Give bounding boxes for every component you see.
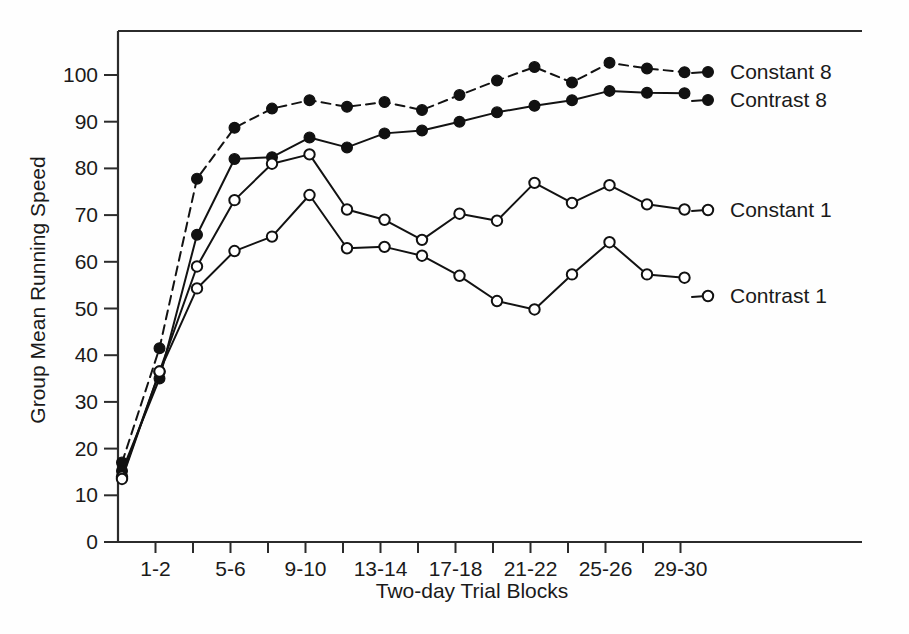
data-point: [304, 149, 314, 159]
data-point: [417, 251, 427, 261]
y-tick-label-90: 90: [75, 110, 98, 133]
series-path-0: [122, 63, 685, 463]
data-point: [192, 261, 202, 271]
data-point: [567, 95, 578, 106]
data-point: [492, 296, 502, 306]
data-point: [154, 366, 164, 376]
line-chart: 0102030405060708090100 1-25-69-1013-1417…: [0, 0, 909, 634]
y-tick-label-20: 20: [75, 437, 98, 460]
y-tick-label-30: 30: [75, 390, 98, 413]
legend-marker-3: [703, 291, 713, 301]
legend-label-1: Contrast 8: [730, 88, 827, 111]
y-axis-title: Group Mean Running Speed: [26, 156, 49, 423]
data-point: [529, 100, 540, 111]
data-point: [304, 190, 314, 200]
data-point: [117, 474, 127, 484]
x-tick-label-17-18: 17-18: [429, 557, 483, 580]
data-point: [379, 97, 390, 108]
y-axis-tick-labels: 0102030405060708090100: [63, 63, 98, 553]
data-point: [342, 101, 353, 112]
data-point: [267, 103, 278, 114]
data-point: [679, 88, 690, 99]
data-point: [229, 246, 239, 256]
data-point: [417, 105, 428, 116]
data-point: [342, 142, 353, 153]
x-tick-label-5-6: 5-6: [215, 557, 245, 580]
data-point: [192, 173, 203, 184]
data-point: [492, 216, 502, 226]
data-point: [642, 269, 652, 279]
data-point: [229, 195, 239, 205]
series-layer: [117, 57, 690, 484]
data-point: [229, 122, 240, 133]
x-axis-tick-labels: 1-25-69-1013-1417-1821-2225-2629-30: [140, 557, 707, 580]
data-point: [192, 283, 202, 293]
data-point: [529, 178, 539, 188]
legend-entry-constant-1: Constant 1: [692, 198, 832, 221]
data-point: [379, 128, 390, 139]
data-point: [229, 154, 240, 165]
legend-entry-contrast-8: Contrast 8: [692, 88, 827, 111]
series-constant-8: [117, 57, 690, 468]
data-point: [454, 208, 464, 218]
y-tick-label-100: 100: [63, 63, 98, 86]
y-tick-label-10: 10: [75, 483, 98, 506]
data-point: [642, 199, 652, 209]
y-tick-label-50: 50: [75, 297, 98, 320]
legend-label-0: Constant 8: [730, 60, 832, 83]
data-point: [679, 67, 690, 78]
x-tick-label-21-22: 21-22: [504, 557, 558, 580]
data-point: [304, 132, 315, 143]
x-tick-label-25-26: 25-26: [579, 557, 633, 580]
legend-marker-0: [703, 67, 714, 78]
legend-label-3: Contrast 1: [730, 284, 827, 307]
data-point: [417, 125, 428, 136]
y-tick-label-70: 70: [75, 203, 98, 226]
legend-entry-constant-8: Constant 8: [692, 60, 832, 83]
data-point: [267, 231, 277, 241]
x-tick-label-9-10: 9-10: [284, 557, 326, 580]
data-point: [567, 269, 577, 279]
data-point: [154, 343, 165, 354]
y-tick-label-60: 60: [75, 250, 98, 273]
data-point: [379, 215, 389, 225]
data-point: [454, 271, 464, 281]
series-contrast-8: [117, 85, 690, 476]
data-point: [379, 242, 389, 252]
data-point: [529, 304, 539, 314]
data-point: [529, 62, 540, 73]
data-point: [642, 87, 653, 98]
data-point: [679, 272, 689, 282]
y-tick-label-80: 80: [75, 156, 98, 179]
y-tick-label-40: 40: [75, 343, 98, 366]
data-point: [417, 235, 427, 245]
data-point: [267, 159, 277, 169]
series-path-2: [122, 154, 685, 476]
data-point: [304, 95, 315, 106]
x-axis-title: Two-day Trial Blocks: [376, 579, 569, 602]
x-tick-label-13-14: 13-14: [354, 557, 408, 580]
data-point: [192, 229, 203, 240]
figure-canvas: 0102030405060708090100 1-25-69-1013-1417…: [0, 0, 909, 634]
data-point: [604, 180, 614, 190]
data-point: [642, 63, 653, 74]
series-constant-1: [117, 149, 690, 482]
data-point: [604, 85, 615, 96]
data-point: [492, 107, 503, 118]
x-axis-ticks: [156, 542, 681, 553]
legend-marker-2: [703, 205, 713, 215]
data-point: [454, 90, 465, 101]
y-axis-ticks: [104, 75, 118, 542]
data-point: [567, 77, 578, 88]
chart-legend: Constant 8Contrast 8Constant 1Contrast 1: [692, 60, 832, 307]
series-path-1: [122, 91, 685, 471]
y-tick-label-0: 0: [86, 530, 98, 553]
data-point: [567, 198, 577, 208]
data-point: [604, 57, 615, 68]
data-point: [342, 204, 352, 214]
legend-label-2: Constant 1: [730, 198, 832, 221]
x-tick-label-29-30: 29-30: [654, 557, 708, 580]
data-point: [604, 237, 614, 247]
data-point: [454, 116, 465, 127]
legend-marker-1: [703, 95, 714, 106]
